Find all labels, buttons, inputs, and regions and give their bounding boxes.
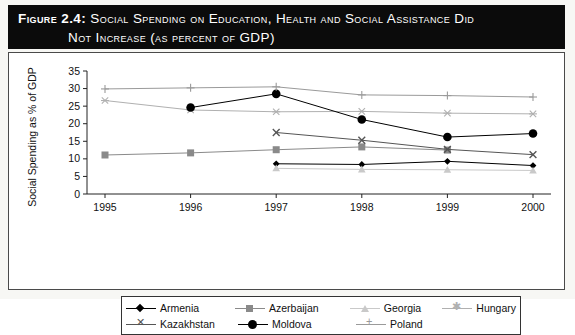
series-georgia — [272, 165, 536, 174]
y-tick-label: 35 — [68, 65, 80, 77]
figure-number-label: Figure 2.4: — [18, 11, 86, 26]
triangle-marker-icon — [350, 302, 380, 314]
x-marker-icon: ✕ — [126, 318, 156, 330]
plus-marker-icon: + — [356, 318, 386, 330]
series-azerbaijan — [102, 143, 451, 158]
legend-item-poland[interactable]: + Poland — [356, 318, 451, 330]
series-hungary — [101, 97, 537, 117]
star-marker-icon: ✱ — [442, 302, 472, 314]
x-tick-label: 1998 — [350, 201, 374, 213]
plot-svg: 05101520253035199519961997199819992000 — [9, 53, 566, 291]
figure-title-text-1: Social Spending on Education, Health and… — [90, 11, 474, 26]
legend-item-armenia[interactable]: Armenia — [126, 302, 235, 314]
chart-area: Social Spending as % of GDP 051015202530… — [9, 53, 566, 291]
y-tick-label: 5 — [74, 170, 80, 182]
legend-row-1: Armenia Azerbaijan Georgia — [126, 300, 516, 316]
y-tick-label: 30 — [68, 82, 80, 94]
legend-label-moldova: Moldova — [272, 318, 312, 330]
x-tick-label: 2000 — [521, 201, 545, 213]
x-tick-label: 1996 — [179, 201, 203, 213]
series-armenia — [273, 158, 537, 169]
diamond-marker-icon — [126, 302, 156, 314]
x-tick-label: 1999 — [436, 201, 460, 213]
y-tick-label: 20 — [68, 117, 80, 129]
legend-label-azerbaijan: Azerbaijan — [269, 302, 319, 314]
series-kazakhstan — [273, 129, 537, 158]
circle-marker-icon — [238, 318, 268, 330]
series-poland — [101, 83, 537, 101]
legend-label-georgia: Georgia — [384, 302, 421, 314]
legend-item-kazakhstan[interactable]: ✕ Kazakhstan — [126, 318, 238, 330]
legend-item-georgia[interactable]: Georgia — [350, 302, 442, 314]
y-tick-label: 10 — [68, 152, 80, 164]
y-tick-label: 15 — [68, 135, 80, 147]
legend-item-hungary[interactable]: ✱ Hungary — [442, 302, 516, 314]
legend-label-kazakhstan: Kazakhstan — [160, 318, 215, 330]
y-tick-label: 25 — [68, 100, 80, 112]
legend-label-armenia: Armenia — [160, 302, 199, 314]
figure-title-bar: Figure 2.4: Social Spending on Education… — [8, 5, 565, 49]
chart-legend: Armenia Azerbaijan Georgia — [121, 296, 521, 335]
legend-item-moldova[interactable]: Moldova — [238, 318, 356, 330]
figure-title-line-2: Not Increase (as percent of GDP) — [18, 28, 555, 47]
chart-panel: Social Spending as % of GDP 051015202530… — [8, 52, 565, 290]
square-marker-icon — [235, 302, 265, 314]
figure-title-line-1: Figure 2.4: Social Spending on Education… — [18, 9, 555, 28]
legend-row-2: ✕ Kazakhstan Moldova + Polan — [126, 316, 516, 332]
legend-label-poland: Poland — [390, 318, 423, 330]
x-tick-label: 1997 — [265, 201, 289, 213]
legend-item-azerbaijan[interactable]: Azerbaijan — [235, 302, 350, 314]
x-tick-label: 1995 — [93, 201, 117, 213]
legend-label-hungary: Hungary — [476, 302, 516, 314]
y-tick-label: 0 — [74, 188, 80, 200]
